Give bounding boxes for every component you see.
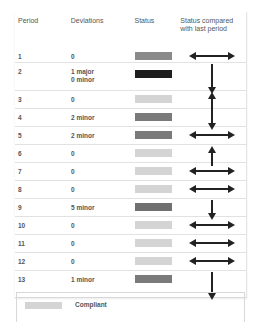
comparison-cell <box>179 66 245 94</box>
period-cell: 9 <box>15 202 71 211</box>
deviations-major: 1 major <box>71 68 135 76</box>
status-bar <box>135 149 172 157</box>
status-bar <box>135 239 172 247</box>
table-row: 10 <box>15 48 246 63</box>
status-bar <box>135 167 172 175</box>
period-cell: 12 <box>15 256 71 265</box>
status-table: Period Deviations Status Status compared… <box>15 12 247 298</box>
status-cell <box>135 184 179 193</box>
status-bar <box>135 221 172 229</box>
table-row: 70 <box>15 163 246 181</box>
period-cell: 1 <box>15 51 71 60</box>
period-cell: 8 <box>15 184 71 193</box>
table-row: 95 minor <box>15 199 246 217</box>
status-cell <box>135 202 179 211</box>
legend: Compliant <box>16 292 245 322</box>
double-horizontal-arrow-icon <box>189 131 235 139</box>
header-deviations: Deviations <box>71 17 135 25</box>
comparison-cell <box>179 130 245 139</box>
deviations-cell: 0 <box>71 94 135 104</box>
double-horizontal-arrow-icon <box>189 185 235 193</box>
period-cell: 13 <box>15 274 71 283</box>
comparison-cell <box>179 51 245 60</box>
deviations-cell: 0 <box>71 220 135 230</box>
status-bar <box>135 203 172 211</box>
period-cell: 7 <box>15 166 71 175</box>
status-bar <box>135 113 172 121</box>
status-bar <box>135 257 172 265</box>
status-bar <box>135 185 172 193</box>
status-cell <box>135 148 179 157</box>
table-row: 30 <box>15 91 246 109</box>
status-cell <box>135 112 179 121</box>
table-header: Period Deviations Status Status compared… <box>15 12 246 48</box>
deviations-minor: 0 minor <box>71 76 135 84</box>
period-cell: 5 <box>15 130 71 139</box>
table-row: 120 <box>15 253 246 271</box>
header-comparison: Status compared with last period <box>178 17 246 33</box>
header-status: Status <box>134 17 178 24</box>
double-horizontal-arrow-icon <box>189 257 235 265</box>
status-bar <box>135 95 172 103</box>
period-cell: 2 <box>15 66 71 75</box>
legend-swatch-compliant <box>25 302 62 309</box>
status-cell <box>135 130 179 139</box>
double-horizontal-arrow-icon <box>189 239 235 247</box>
down-arrow-icon <box>208 64 216 94</box>
table-row: 42 minor <box>15 109 246 127</box>
table-row: 110 <box>15 235 246 253</box>
status-cell <box>135 166 179 175</box>
deviations-cell: 5 minor <box>71 202 135 212</box>
table-row: 52 minor <box>15 127 246 145</box>
comparison-cell <box>179 166 245 175</box>
status-cell <box>135 94 179 103</box>
double-horizontal-arrow-icon <box>189 221 235 229</box>
status-cell <box>135 51 179 60</box>
period-cell: 10 <box>15 220 71 229</box>
status-cell <box>135 238 179 247</box>
deviations-cell: 1 minor <box>71 274 135 284</box>
table-row: 21 major0 minor <box>15 63 246 91</box>
status-bar <box>135 275 172 283</box>
status-bar <box>135 131 172 139</box>
status-bar <box>135 70 172 78</box>
period-cell: 3 <box>15 94 71 103</box>
deviations-cell: 2 minor <box>71 112 135 122</box>
status-cell <box>135 66 179 78</box>
period-cell: 11 <box>15 238 71 247</box>
period-cell: 6 <box>15 148 71 157</box>
table-row: 80 <box>15 181 246 199</box>
status-cell <box>135 274 179 283</box>
deviations-cell: 1 major0 minor <box>71 66 135 84</box>
deviations-cell: 0 <box>71 148 135 158</box>
status-cell <box>135 256 179 265</box>
double-horizontal-arrow-icon <box>189 167 235 175</box>
deviations-cell: 0 <box>71 256 135 266</box>
deviations-cell: 0 <box>71 166 135 176</box>
deviations-cell: 0 <box>71 51 135 61</box>
comparison-cell <box>179 238 245 247</box>
status-cell <box>135 220 179 229</box>
comparison-cell <box>179 220 245 229</box>
deviations-cell: 0 <box>71 238 135 248</box>
legend-label-compliant: Compliant <box>75 301 107 308</box>
double-horizontal-arrow-icon <box>189 52 235 60</box>
comparison-cell <box>179 184 245 193</box>
period-cell: 4 <box>15 112 71 121</box>
deviations-cell: 2 minor <box>71 130 135 140</box>
table-row: 100 <box>15 217 246 235</box>
deviations-cell: 0 <box>71 184 135 194</box>
status-bar <box>135 52 172 60</box>
comparison-cell <box>179 256 245 265</box>
table-row: 60 <box>15 145 246 163</box>
header-period: Period <box>15 17 71 24</box>
